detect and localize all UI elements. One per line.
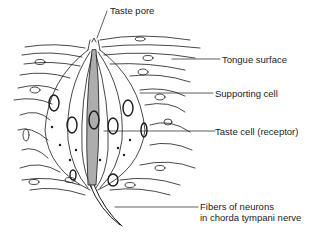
taste-cell-label: Taste cell (receptor) [215,126,298,137]
nerve-fibers-label-line1: Fibers of neurons [200,201,274,212]
nerve-fibers [90,185,122,226]
tongue-epithelium-right [100,36,200,195]
taste-pore [88,38,100,50]
nerve-fibers-label-line2: in chorda tympani nerve [200,212,301,223]
supporting-cell-label: Supporting cell [215,88,278,99]
tongue-epithelium-left [14,45,85,195]
tongue-surface-label: Tongue surface [222,54,287,65]
leader-lines [97,11,220,207]
taste-pore-label: Taste pore [110,5,154,16]
